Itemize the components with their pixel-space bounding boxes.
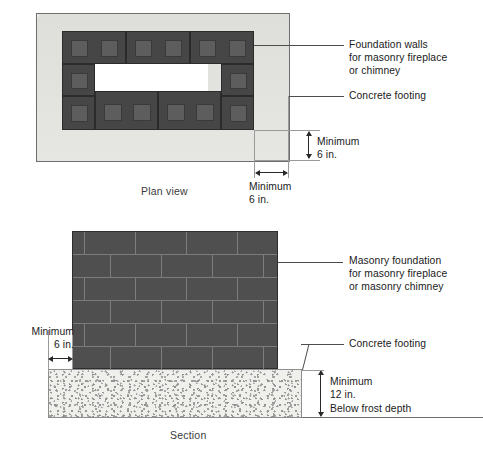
section-dim-label-projection: Minimum 6 in. — [14, 325, 74, 351]
section-leader-concrete-footing — [301, 344, 344, 345]
plan-block-cell — [71, 105, 88, 122]
plan-block-bottom-1 — [95, 91, 158, 130]
mortar-joint-vertical — [84, 232, 85, 254]
plan-block-cell — [196, 104, 214, 121]
mortar-joint-vertical — [135, 232, 136, 254]
mortar-joint-horizontal — [73, 254, 277, 255]
mortar-joint-vertical — [212, 300, 213, 323]
plan-dim-arrow-up-icon — [306, 131, 312, 136]
plan-block-cell — [133, 104, 151, 121]
plan-block-cell — [104, 104, 122, 121]
mortar-joint-vertical — [263, 346, 264, 370]
plan-block-cell — [101, 40, 118, 57]
mortar-joint-vertical — [186, 232, 187, 254]
plan-block-cell — [230, 105, 247, 122]
plan-ext-line-horizontal-footing-edge — [254, 160, 320, 161]
plan-block-cell — [135, 40, 152, 57]
plan-ext-line-vertical-footing-edge — [288, 96, 289, 178]
mortar-joint-vertical — [84, 323, 85, 346]
plan-block-cell — [165, 40, 182, 57]
plan-dim-arrow-right-icon — [283, 170, 288, 176]
plan-block-cell — [199, 40, 216, 57]
plan-callout-concrete-footing: Concrete footing — [349, 89, 479, 102]
plan-block-cell — [230, 73, 247, 89]
mortar-joint-vertical — [161, 254, 162, 277]
plan-block-top-1 — [62, 31, 126, 64]
plan-interior-void — [84, 64, 208, 91]
mortar-joint-vertical — [212, 254, 213, 277]
mortar-joint-vertical — [237, 277, 238, 300]
mortar-joint-vertical — [161, 300, 162, 323]
plan-block-right-2 — [221, 96, 254, 130]
section-ext-line-footing-top — [302, 370, 324, 371]
plan-dim-arrow-down-icon — [306, 154, 312, 159]
mortar-joint-vertical — [161, 346, 162, 370]
section-view-title: Section — [170, 429, 206, 441]
section-leader-masonry-foundation — [278, 262, 343, 263]
mortar-joint-vertical — [263, 300, 264, 323]
mortar-joint-vertical — [110, 300, 111, 323]
mortar-joint-vertical — [135, 323, 136, 346]
plan-block-cell — [229, 40, 246, 57]
plan-block-left-2 — [62, 96, 95, 130]
section-masonry-foundation-wall — [72, 231, 278, 369]
section-dim-arrow-left-icon — [48, 356, 53, 362]
section-dim-arrow-right-icon — [68, 356, 73, 362]
section-leader-concrete-footing-diagonal — [302, 345, 309, 370]
plan-view-title: Plan view — [141, 185, 188, 197]
plan-dim-label-vertical: Minimum 6 in. — [317, 135, 407, 161]
mortar-joint-vertical — [84, 277, 85, 300]
plan-block-top-2 — [126, 31, 190, 64]
plan-block-cell — [167, 104, 185, 121]
plan-leader-foundation-walls — [254, 45, 344, 46]
section-callout-concrete-footing: Concrete footing — [349, 337, 483, 350]
plan-callout-foundation-walls: Foundation walls for masonry fireplace o… — [349, 38, 479, 78]
plan-dim-arrow-left-icon — [255, 170, 260, 176]
mortar-joint-vertical — [237, 323, 238, 346]
mortar-joint-vertical — [186, 323, 187, 346]
plan-block-cell — [71, 40, 88, 57]
section-frost-depth-line — [302, 417, 483, 418]
section-callout-masonry-foundation: Masonry foundation for masonry fireplace… — [349, 254, 483, 294]
mortar-joint-horizontal — [73, 323, 277, 324]
plan-block-cell — [71, 73, 88, 89]
plan-block-bottom-2 — [158, 91, 221, 130]
figure-canvas: Foundation walls for masonry fireplace o… — [0, 0, 483, 454]
section-dim-label-thickness: Minimum 12 in. — [330, 375, 420, 401]
section-concrete-footing — [48, 369, 302, 418]
mortar-joint-vertical — [186, 277, 187, 300]
mortar-joint-vertical — [110, 346, 111, 370]
plan-block-right-1 — [221, 64, 254, 96]
section-note-frost-depth: Below frost depth — [330, 402, 480, 415]
mortar-joint-vertical — [212, 346, 213, 370]
plan-dim-label-horizontal: Minimum 6 in. — [249, 180, 339, 206]
plan-block-top-3 — [190, 31, 254, 64]
mortar-joint-vertical — [135, 277, 136, 300]
concrete-texture — [49, 370, 301, 417]
plan-block-left-1 — [62, 64, 95, 96]
mortar-joint-horizontal — [73, 300, 277, 301]
mortar-joint-horizontal — [73, 277, 277, 278]
section-dim-line-thickness — [320, 371, 321, 416]
mortar-joint-vertical — [263, 254, 264, 277]
mortar-joint-horizontal — [73, 346, 277, 347]
mortar-joint-vertical — [237, 232, 238, 254]
plan-leader-concrete-footing — [288, 96, 344, 97]
mortar-joint-vertical — [110, 254, 111, 277]
